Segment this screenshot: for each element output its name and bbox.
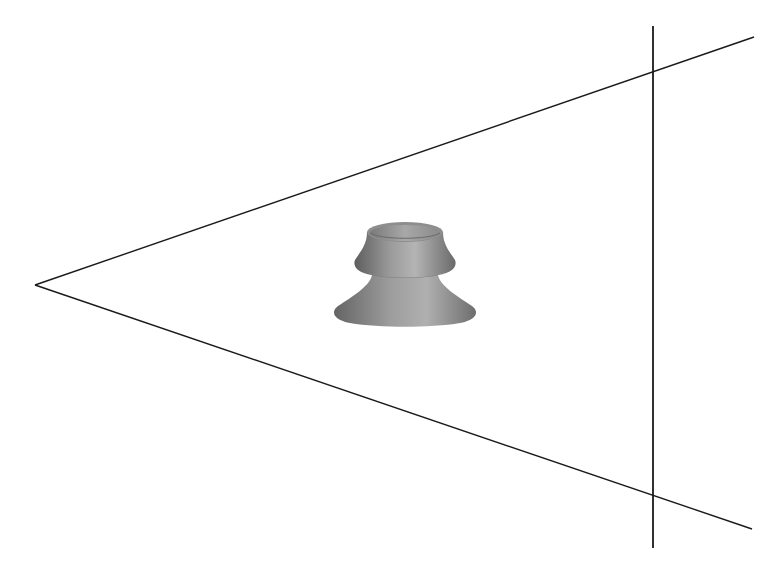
diagram-canvas xyxy=(0,0,783,576)
object-base xyxy=(334,274,476,327)
suction-cup-object xyxy=(334,222,476,327)
